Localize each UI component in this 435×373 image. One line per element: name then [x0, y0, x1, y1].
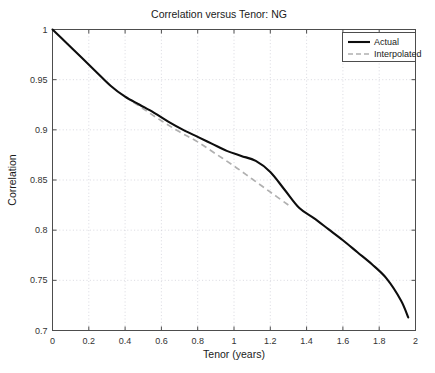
- x-tick-label: 0.2: [83, 336, 96, 346]
- y-tick-labels: 0.70.750.80.850.90.951: [30, 25, 48, 336]
- x-tick-label: 1.2: [264, 336, 277, 346]
- x-tick-label: 1: [231, 336, 236, 346]
- chart-title-group: Correlation versus Tenor: NG: [151, 8, 287, 20]
- x-axis-title-group: Tenor (years): [203, 348, 265, 360]
- x-tick-label: 1.8: [373, 336, 386, 346]
- x-tick-label: 1.6: [337, 336, 350, 346]
- y-tick-label: 0.7: [35, 326, 48, 336]
- y-axis-title-group: Correlation: [6, 154, 18, 206]
- y-tick-label: 0.8: [35, 225, 48, 235]
- series-actual-line: [53, 30, 409, 318]
- y-tick-label: 1: [42, 25, 47, 35]
- data-series: [53, 30, 409, 318]
- y-axis-label: Correlation: [6, 154, 18, 206]
- x-tick-label: 0.8: [191, 336, 204, 346]
- legend-label-actual: Actual: [374, 37, 399, 47]
- y-tick-label: 0.95: [30, 75, 48, 85]
- legend: Actual Interpolated: [343, 33, 422, 62]
- figure-container: Correlation versus Tenor: NG 00.20.40.60…: [0, 0, 435, 373]
- series-interpolated-line: [125, 97, 288, 205]
- x-tick-label: 1.4: [300, 336, 313, 346]
- x-tick-label: 2: [413, 336, 418, 346]
- y-tick-label: 0.9: [35, 125, 48, 135]
- y-tick-label: 0.85: [30, 175, 48, 185]
- x-axis-label: Tenor (years): [203, 348, 265, 360]
- gridlines: [53, 30, 416, 331]
- correlation-tenor-chart: Correlation versus Tenor: NG 00.20.40.60…: [0, 0, 435, 373]
- y-tick-label: 0.75: [30, 275, 48, 285]
- x-tick-label: 0: [50, 336, 55, 346]
- legend-label-interpolated: Interpolated: [374, 49, 422, 59]
- x-tick-label: 0.6: [155, 336, 168, 346]
- x-tick-labels: 00.20.40.60.811.21.41.61.82: [50, 336, 418, 346]
- page-title: Correlation versus Tenor: NG: [151, 8, 287, 20]
- x-tick-label: 0.4: [119, 336, 132, 346]
